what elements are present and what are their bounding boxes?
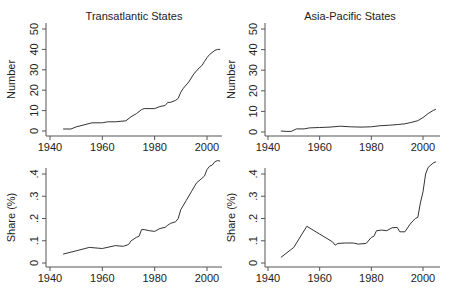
x-tick-label: 2000 (411, 272, 435, 284)
y-tick-label: .4 (247, 169, 259, 178)
y-axis-label: Share (%) (225, 193, 237, 243)
x-tick-label: 1980 (142, 272, 166, 284)
y-tick-label: 10 (247, 105, 259, 117)
panel-bottom-left: 0.1.2.3.41940196019802000Share (%) (5, 161, 222, 284)
x-tick-label: 2000 (195, 272, 219, 284)
series-line (63, 161, 220, 255)
panel-title: Transatlantic States (86, 10, 183, 22)
series-line (63, 49, 220, 129)
x-tick-label: 1980 (359, 141, 383, 153)
y-tick-label: .1 (247, 236, 259, 245)
y-tick-label: .1 (28, 236, 40, 245)
y-tick-label: 10 (28, 104, 40, 116)
y-tick-label: 0 (247, 129, 259, 135)
panel-title: Asia-Pacific States (304, 10, 396, 22)
y-tick-label: 20 (28, 84, 40, 96)
y-tick-label: .2 (28, 214, 40, 223)
y-tick-label: 0 (28, 128, 40, 134)
y-tick-label: .3 (247, 192, 259, 201)
x-tick-label: 1940 (38, 272, 62, 284)
x-tick-label: 1940 (38, 141, 62, 153)
x-tick-label: 1960 (307, 141, 331, 153)
panel-top-right: Asia-Pacific States010203040501940196019… (225, 10, 440, 153)
y-tick-label: 30 (28, 64, 40, 76)
x-tick-label: 1960 (90, 141, 114, 153)
y-tick-label: 0 (247, 260, 259, 266)
y-tick-label: .3 (28, 192, 40, 201)
x-tick-label: 1960 (307, 272, 331, 284)
y-tick-label: 30 (247, 64, 259, 76)
x-tick-label: 1980 (359, 272, 383, 284)
x-tick-label: 2000 (411, 141, 435, 153)
y-tick-label: 0 (28, 260, 40, 266)
x-tick-label: 1940 (256, 141, 280, 153)
y-tick-label: 50 (247, 23, 259, 35)
y-axis-label: Number (5, 60, 17, 99)
series-line (281, 162, 436, 258)
x-tick-label: 1980 (142, 141, 166, 153)
y-axis-label: Share (%) (5, 193, 17, 243)
y-tick-label: .4 (28, 169, 40, 178)
panel-bottom-right: 0.1.2.3.41940196019802000Share (%) (225, 162, 440, 284)
y-tick-label: .2 (247, 214, 259, 223)
x-tick-label: 1960 (90, 272, 114, 284)
y-tick-label: 20 (247, 85, 259, 97)
chart-figure: Transatlantic States01020304050194019601… (0, 0, 454, 296)
y-tick-label: 50 (28, 23, 40, 35)
panel-top-left: Transatlantic States01020304050194019601… (5, 10, 222, 153)
y-tick-label: 40 (28, 43, 40, 55)
series-line (281, 109, 436, 131)
x-tick-label: 2000 (195, 141, 219, 153)
x-tick-label: 1940 (256, 272, 280, 284)
y-axis-label: Number (225, 60, 237, 99)
y-tick-label: 40 (247, 43, 259, 55)
